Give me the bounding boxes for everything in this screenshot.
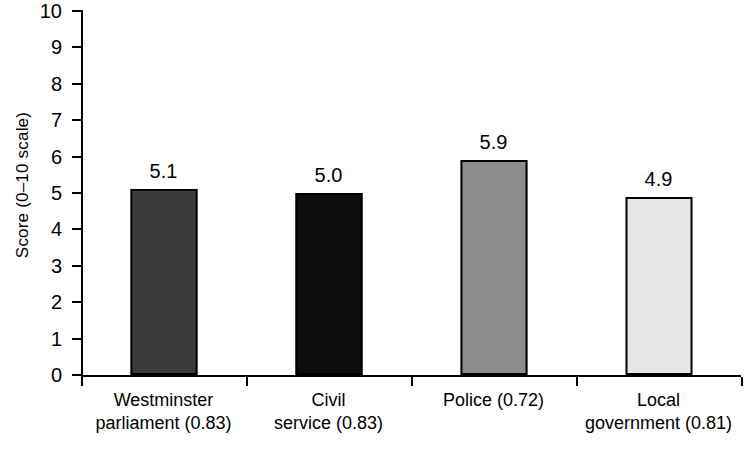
x-axis-tick-mark: [411, 377, 413, 386]
y-axis-tick-mark: [72, 265, 81, 267]
bar-value-label: 5.9: [480, 132, 508, 152]
y-axis-tick-label: 7: [36, 110, 62, 130]
bar-group: 5.1: [81, 10, 246, 375]
x-axis-category-label: Civilservice (0.83): [246, 389, 411, 434]
bar: [625, 197, 692, 375]
bar: [295, 193, 362, 375]
y-axis-title: Score (0–10 scale): [8, 0, 38, 375]
category-label-line: parliament (0.83): [81, 412, 246, 435]
x-axis-tick-mark: [741, 377, 743, 386]
y-axis-tick-mark: [72, 228, 81, 230]
x-axis-category-label: Localgovernment (0.81): [576, 389, 741, 434]
y-axis-tick-mark: [72, 119, 81, 121]
x-axis-tick-mark: [576, 377, 578, 386]
y-axis-tick-label: 3: [36, 256, 62, 276]
y-axis-tick-label: 1: [36, 329, 62, 349]
y-axis-tick-label: 8: [36, 74, 62, 94]
x-axis-tick-mark: [246, 377, 248, 386]
y-axis-tick-label: 9: [36, 37, 62, 57]
y-axis-tick-mark: [72, 83, 81, 85]
y-axis-tick-mark: [72, 338, 81, 340]
bar-value-label: 4.9: [645, 169, 673, 189]
category-label-line: service (0.83): [246, 412, 411, 435]
y-axis-tick-label: 6: [36, 147, 62, 167]
category-label-line: government (0.81): [576, 412, 741, 435]
bar-value-label: 5.1: [150, 161, 178, 181]
y-axis-tick-mark: [72, 301, 81, 303]
bar-group: 5.0: [246, 10, 411, 375]
category-label-line: Police (0.72): [411, 389, 576, 412]
bar: [130, 189, 197, 375]
x-axis-category-label: Police (0.72): [411, 389, 576, 412]
y-axis-tick-label: 10: [36, 1, 62, 21]
x-axis-category-label: Westminsterparliament (0.83): [81, 389, 246, 434]
y-axis-tick-label: 4: [36, 219, 62, 239]
category-label-line: Westminster: [81, 389, 246, 412]
y-axis-tick-mark: [72, 156, 81, 158]
x-axis-tick-mark: [81, 377, 83, 386]
bar-group: 4.9: [576, 10, 741, 375]
y-axis-tick-mark: [72, 46, 81, 48]
bar-value-label: 5.0: [315, 165, 343, 185]
y-axis-tick-label: 0: [36, 365, 62, 385]
y-axis-tick-mark: [72, 10, 81, 12]
y-axis-tick-label: 2: [36, 292, 62, 312]
bar-chart-figure: Score (0–10 scale) 012345678910 5.15.05.…: [0, 0, 756, 449]
bar-group: 5.9: [411, 10, 576, 375]
y-axis-tick-mark: [72, 192, 81, 194]
y-axis-tick-label: 5: [36, 183, 62, 203]
plot-area: 5.15.05.94.9: [83, 10, 741, 375]
bar: [460, 160, 527, 375]
category-label-line: Civil: [246, 389, 411, 412]
category-label-line: Local: [576, 389, 741, 412]
y-axis-tick-mark: [72, 374, 81, 376]
